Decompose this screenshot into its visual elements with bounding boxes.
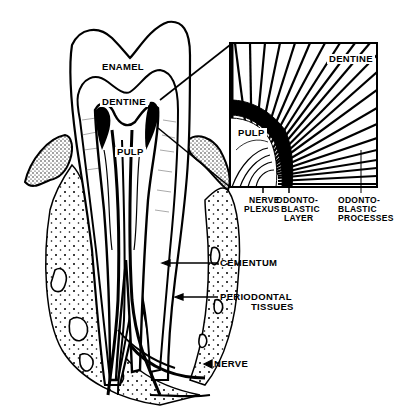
label-nerve: NERVE	[214, 359, 248, 369]
label-periodontal-tissues: PERIODONTAL TISSUES	[220, 292, 294, 312]
inset-label-dentine: DENTINE	[327, 54, 375, 64]
inset-label-pulp: PULP	[236, 128, 267, 138]
label-nerve-plexus-line2: PLEXUS	[244, 205, 280, 214]
label-cementum: CEMENTUM	[220, 258, 277, 268]
label-odontoblastic-processes: ODONTO- BLASTIC PROCESSES	[338, 196, 394, 223]
label-odontoblastic-layer: ODONTO- BLASTIC LAYER	[276, 196, 320, 223]
label-periodontal-line2: TISSUES	[220, 302, 294, 312]
label-nerve-plexus: NERVE PLEXUS	[244, 196, 280, 214]
label-dentine: DENTINE	[100, 97, 148, 107]
label-pulp: PULP	[115, 147, 146, 157]
label-odontoblastic-layer-line3: LAYER	[276, 214, 320, 223]
label-odontoblastic-processes-line3: PROCESSES	[338, 214, 394, 223]
label-enamel: ENAMEL	[102, 62, 144, 72]
magnified-inset	[230, 43, 377, 193]
alveolar-bone-right	[190, 188, 240, 385]
